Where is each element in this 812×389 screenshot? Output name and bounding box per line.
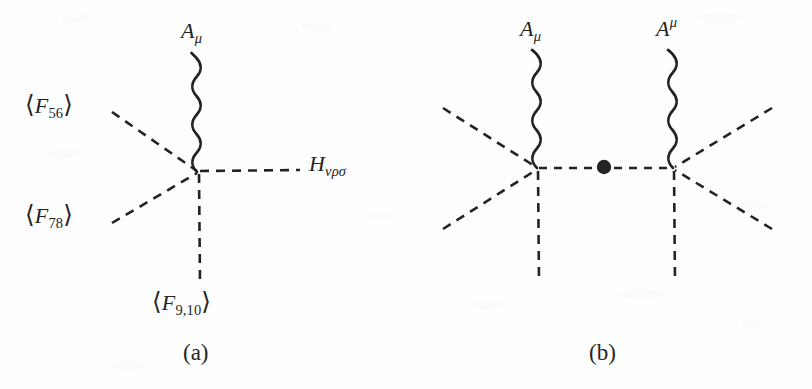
panel-a-flux-lower-left-line [112, 173, 197, 223]
angle-open-bracket: ⟨ [25, 90, 35, 119]
panel-b-right-flux-bottom-line [674, 171, 675, 283]
panel-b-left-flux-lower-line [443, 170, 536, 229]
panel-a-caption: (a) [183, 341, 209, 364]
panel-b-left-flux-upper-line [443, 108, 536, 167]
panel-a-photon-label-sub: μ [195, 30, 202, 46]
panel-b-left-photon-sub: μ [534, 28, 541, 44]
panel-b-diagram [443, 50, 772, 283]
panel-b-left-photon-line [532, 50, 541, 168]
panel-b-right-flux-lower-line [675, 170, 772, 229]
flux-sub: 78 [48, 215, 63, 231]
panel-b-right-photon-line [668, 50, 677, 168]
panel-b-caption: (b) [589, 341, 616, 364]
panel-a-flux-bottom-label: ⟨F9,10⟩ [152, 290, 211, 315]
panel-b-left-photon-label: Aμ [520, 18, 541, 40]
angle-open-bracket: ⟨ [25, 200, 35, 229]
angle-close-bracket: ⟩ [63, 90, 73, 119]
panel-a-h-field-line [200, 170, 300, 171]
panel-a-photon-label-base: A [181, 18, 195, 43]
panel-b-right-photon-sup: μ [670, 14, 677, 30]
feynman-diagram-svg: .dline { stroke: #232323; stroke-width: … [0, 0, 812, 389]
panel-a-flux-lower-left-label: ⟨F78⟩ [25, 203, 73, 228]
panel-b-right-photon-base: A [656, 16, 670, 41]
angle-close-bracket: ⟩ [63, 200, 73, 229]
panel-a-flux-upper-left-line [112, 112, 197, 171]
panel-b-interaction-blob [597, 160, 611, 174]
figure-container: .dline { stroke: #232323; stroke-width: … [0, 0, 812, 389]
panel-a-photon-line [192, 53, 201, 172]
panel-a-diagram [112, 53, 300, 283]
panel-b-right-flux-upper-line [675, 108, 772, 167]
flux-base: F [35, 203, 49, 228]
panel-a-flux-upper-left-label: ⟨F56⟩ [25, 93, 73, 118]
h-field-base: H [309, 151, 325, 176]
panel-b-left-photon-base: A [520, 16, 534, 41]
flux-base: F [35, 93, 49, 118]
h-field-sub: νρσ [325, 163, 346, 179]
flux-sub: 56 [48, 105, 63, 121]
panel-b-left-flux-bottom-line [538, 171, 539, 283]
angle-open-bracket: ⟨ [152, 287, 162, 316]
panel-a-h-field-label: Hνρσ [309, 153, 346, 175]
panel-a-flux-bottom-line [199, 174, 200, 283]
panel-b-right-photon-label: Aμ [656, 18, 677, 40]
flux-base: F [162, 290, 176, 315]
angle-close-bracket: ⟩ [201, 287, 211, 316]
panel-a-photon-label: Aμ [181, 20, 202, 42]
flux-sub: 9,10 [175, 302, 201, 318]
